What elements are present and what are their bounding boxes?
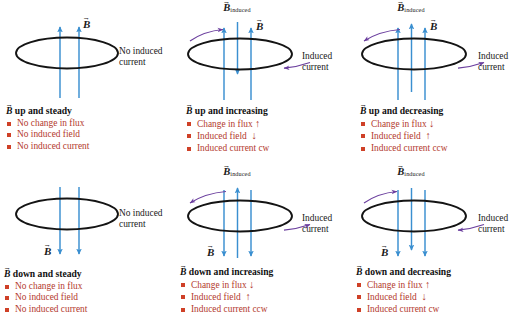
bullet-square-icon xyxy=(361,122,365,126)
bullet-square-icon xyxy=(181,308,185,312)
bullet-square-icon xyxy=(357,308,361,312)
bullet-item: Induced field ↓ xyxy=(356,291,522,304)
bullet-item: Induced field ↑ xyxy=(360,130,522,143)
bullet-square-icon xyxy=(181,295,185,299)
bullet-item: Induced current ccw xyxy=(360,143,522,155)
bullet-item: No induced current xyxy=(6,141,180,153)
caption-title: →B down and increasing xyxy=(180,266,354,277)
bullet-item: Induced current cw xyxy=(186,143,360,155)
loop-ellipse xyxy=(188,201,292,232)
loop-ellipse xyxy=(188,39,292,70)
side-note-no-induced-current: No induced current xyxy=(119,46,162,68)
bullet-square-icon xyxy=(7,133,11,137)
induced-current-arrow xyxy=(190,30,310,69)
loop-ellipse xyxy=(362,39,466,70)
b-induced-label: →Binduced xyxy=(380,166,442,179)
bullet-item: No induced current xyxy=(4,304,178,316)
bullet-square-icon xyxy=(5,308,9,312)
bullet-list: Change in flux ↑ Induced field ↓ Induced… xyxy=(356,279,522,316)
induced-current-arrow xyxy=(364,30,484,69)
bullet-square-icon xyxy=(357,283,361,287)
bullet-item: No change in flux xyxy=(4,281,178,293)
side-note-induced-current: Induced current xyxy=(478,51,508,73)
b-field-label: →B xyxy=(430,21,437,32)
bullet-square-icon xyxy=(5,285,9,289)
induced-current-arrow xyxy=(364,192,484,231)
caption-title: →B up and increasing xyxy=(186,105,360,116)
loop-ellipse xyxy=(362,201,466,232)
induced-field-direction-arrow: ↑ xyxy=(425,130,430,142)
b-induced-label: →Binduced xyxy=(206,2,268,15)
b-field-label: →B xyxy=(83,19,90,30)
flux-direction-arrow: ↑ xyxy=(425,279,430,291)
bullet-item: Change in flux ↓ xyxy=(360,118,522,131)
caption-b-up-decreasing: →B up and decreasing Change in flux ↓ In… xyxy=(348,105,522,154)
panel-b-down-decreasing: →Binduced →B Induced current →B down and… xyxy=(348,166,522,331)
bullet-square-icon xyxy=(361,147,365,151)
bullet-square-icon xyxy=(187,134,191,138)
bullet-list: Change in flux ↓ Induced field ↑ Induced… xyxy=(180,279,354,316)
bullet-item: Induced field ↓ xyxy=(186,130,360,143)
caption-title: →B up and decreasing xyxy=(360,105,522,116)
loop-ellipse xyxy=(16,38,118,69)
caption-b-down-decreasing: →B down and decreasing Change in flux ↑ … xyxy=(348,266,522,315)
bullet-item: No change in flux xyxy=(6,118,180,130)
flux-direction-arrow: ↑ xyxy=(255,118,260,130)
induced-field-direction-arrow: ↓ xyxy=(251,130,256,142)
bullet-item: Induced current ccw xyxy=(180,304,354,316)
side-note-no-induced-current: No induced current xyxy=(119,208,162,230)
bullet-list: Change in flux ↑ Induced field ↓ Induced… xyxy=(186,118,360,155)
flux-direction-arrow: ↓ xyxy=(429,118,434,130)
panel-b-down-increasing: →Binduced →B Induced current →B down and… xyxy=(174,166,348,331)
bullet-square-icon xyxy=(181,283,185,287)
field-arrow-group xyxy=(60,187,79,254)
caption-b-down-increasing: →B down and increasing Change in flux ↓ … xyxy=(174,266,354,315)
bullet-item: No induced field xyxy=(6,129,180,141)
induced-field-direction-arrow: ↑ xyxy=(245,291,250,303)
bullet-square-icon xyxy=(5,296,9,300)
bullet-item: Change in flux ↓ xyxy=(180,279,354,292)
bullet-square-icon xyxy=(361,134,365,138)
bullet-square-icon xyxy=(7,145,11,149)
side-note-induced-current: Induced current xyxy=(302,213,332,235)
caption-title: →B up and steady xyxy=(6,105,180,116)
b-induced-label: →Binduced xyxy=(206,166,268,179)
bullet-list: Change in flux ↓ Induced field ↑ Induced… xyxy=(360,118,522,155)
b-induced-label: →Binduced xyxy=(380,2,442,15)
b-field-label: →B xyxy=(44,246,51,257)
panel-b-up-increasing: →Binduced →B Induced current →B up and i… xyxy=(174,0,348,165)
induced-field-direction-arrow: ↓ xyxy=(421,291,426,303)
b-field-label: →B xyxy=(207,247,214,258)
caption-title: →B down and steady xyxy=(4,268,178,279)
induction-figure: →B No induced current →B up and steady N… xyxy=(0,0,522,331)
caption-b-up-steady: →B up and steady No change in flux No in… xyxy=(0,105,180,152)
panel-b-down-steady: →B No induced current →B down and steady… xyxy=(0,166,174,331)
flux-direction-arrow: ↓ xyxy=(249,279,254,291)
side-note-induced-current: Induced current xyxy=(302,51,332,73)
side-note-induced-current: Induced current xyxy=(478,213,508,235)
bullet-item: No induced field xyxy=(4,292,178,304)
caption-b-up-increasing: →B up and increasing Change in flux ↑ In… xyxy=(174,105,360,154)
bullet-square-icon xyxy=(357,295,361,299)
b-field-label: →B xyxy=(256,21,263,32)
bullet-square-icon xyxy=(187,147,191,151)
induced-current-arrow xyxy=(190,192,310,231)
panel-b-up-decreasing: →Binduced →B Induced current →B up and d… xyxy=(348,0,522,165)
bullet-square-icon xyxy=(187,122,191,126)
bullet-list: No change in flux No induced field No in… xyxy=(6,118,180,153)
loop-ellipse xyxy=(16,199,118,230)
bullet-item: Induced current cw xyxy=(356,304,522,316)
caption-title: →B down and decreasing xyxy=(356,266,522,277)
bullet-item: Change in flux ↑ xyxy=(186,118,360,131)
b-field-label: →B xyxy=(381,247,388,258)
bullet-square-icon xyxy=(7,122,11,126)
panel-b-up-steady: →B No induced current →B up and steady N… xyxy=(0,0,174,165)
bullet-list: No change in flux No induced field No in… xyxy=(4,281,178,316)
caption-b-down-steady: →B down and steady No change in flux No … xyxy=(0,268,178,315)
bullet-item: Induced field ↑ xyxy=(180,291,354,304)
bullet-item: Change in flux ↑ xyxy=(356,279,522,292)
